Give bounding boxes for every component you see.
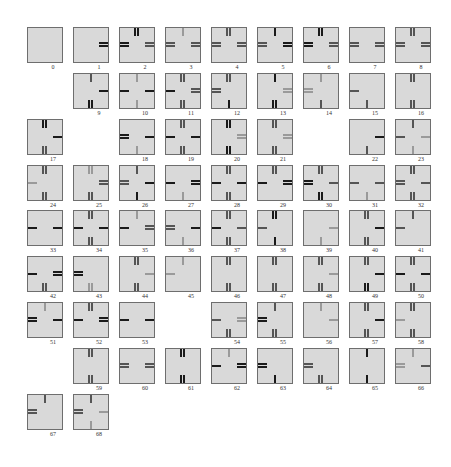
tile-35 [119, 210, 155, 246]
tile-label: 33 [43, 247, 63, 253]
edge-mark [28, 317, 37, 319]
edge-mark [191, 136, 200, 138]
edge-mark [45, 192, 47, 200]
tile-label: 44 [135, 293, 155, 299]
tile-64 [303, 348, 339, 384]
tile-16 [395, 73, 431, 109]
edge-mark [91, 100, 93, 108]
edge-mark [191, 91, 200, 93]
edge-mark [413, 257, 415, 265]
edge-mark [329, 273, 338, 275]
edge-mark [90, 395, 92, 403]
edge-mark [237, 366, 246, 368]
edge-mark [274, 74, 276, 82]
edge-mark [91, 303, 93, 311]
edge-mark [120, 137, 129, 139]
tile-28 [211, 165, 247, 201]
tile-63 [257, 348, 293, 384]
tile-36 [165, 210, 201, 246]
edge-mark [74, 319, 83, 321]
tile-7 [349, 27, 385, 63]
tile-49 [349, 256, 385, 292]
tile-54 [211, 302, 247, 338]
edge-mark [237, 227, 246, 229]
edge-mark [329, 319, 338, 321]
edge-mark [318, 166, 320, 174]
edge-mark [274, 28, 276, 36]
tile-62 [211, 348, 247, 384]
edge-mark [53, 319, 62, 321]
tile-label: 27 [181, 202, 201, 208]
tile-51 [27, 302, 63, 338]
edge-mark [275, 120, 277, 128]
edge-mark [364, 329, 366, 337]
edge-mark [258, 366, 267, 368]
tile-30 [303, 165, 339, 201]
edge-mark [413, 28, 415, 36]
tile-label: 62 [227, 385, 247, 391]
tile-label: 14 [319, 110, 339, 116]
tile-61 [165, 348, 201, 384]
edge-mark [74, 412, 83, 414]
edge-mark [367, 329, 369, 337]
edge-mark [183, 349, 185, 357]
edge-mark [413, 283, 415, 291]
edge-mark [226, 120, 228, 128]
edge-mark [182, 257, 184, 265]
tile-10 [119, 73, 155, 109]
tile-20 [211, 119, 247, 155]
tile-label: 29 [273, 202, 293, 208]
edge-mark [191, 88, 200, 90]
edge-mark [45, 120, 47, 128]
edge-mark [375, 319, 384, 321]
edge-mark [318, 28, 320, 36]
edge-mark [226, 329, 228, 337]
tile-24 [27, 165, 63, 201]
edge-mark [53, 136, 62, 138]
edge-mark [42, 192, 44, 200]
edge-mark [396, 363, 405, 365]
edge-mark [145, 273, 154, 275]
edge-mark [91, 349, 93, 357]
edge-mark [212, 91, 221, 93]
edge-mark [91, 211, 93, 219]
edge-mark [166, 90, 175, 92]
edge-mark [364, 283, 366, 291]
tile-32 [395, 165, 431, 201]
tile-label: 16 [411, 110, 431, 116]
edge-mark [212, 88, 221, 90]
edge-mark [272, 100, 274, 108]
edge-mark [120, 366, 129, 368]
edge-mark [180, 120, 182, 128]
edge-mark [237, 134, 246, 136]
edge-mark [191, 42, 200, 44]
edge-mark [90, 421, 92, 429]
edge-mark [283, 183, 292, 185]
edge-mark [145, 90, 154, 92]
edge-mark [364, 237, 366, 245]
edge-mark [212, 45, 221, 47]
tile-label: 59 [89, 385, 109, 391]
edge-mark [226, 74, 228, 82]
tile-29 [257, 165, 293, 201]
edge-mark [375, 45, 384, 47]
tile-label: 2 [135, 64, 155, 70]
edge-mark [321, 375, 323, 383]
edge-mark [212, 319, 221, 321]
tile-8 [395, 27, 431, 63]
edge-mark [229, 28, 231, 36]
edge-mark [421, 365, 430, 367]
tile-2 [119, 27, 155, 63]
edge-mark [410, 74, 412, 82]
tile-25 [73, 165, 109, 201]
tile-50 [395, 256, 431, 292]
edge-mark [120, 90, 129, 92]
edge-mark [145, 228, 154, 230]
edge-mark [318, 375, 320, 383]
edge-mark [229, 237, 231, 245]
edge-mark [272, 283, 274, 291]
tile-label: 64 [319, 385, 339, 391]
tile-label: 6 [319, 64, 339, 70]
edge-mark [74, 227, 83, 229]
edge-mark [180, 375, 182, 383]
